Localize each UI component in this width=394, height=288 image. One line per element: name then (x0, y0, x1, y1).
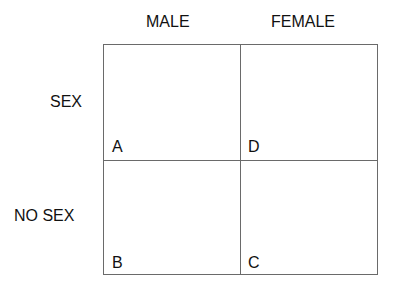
quadrant-grid: A D B C (103, 44, 378, 275)
cell-label-b: B (112, 255, 123, 271)
row-header-sex: SEX (50, 94, 82, 110)
column-header-male: MALE (146, 14, 190, 30)
column-header-female: FEMALE (271, 14, 335, 30)
row-header-no-sex: NO SEX (14, 208, 74, 224)
cell-label-a: A (112, 139, 123, 155)
horizontal-divider (104, 160, 377, 161)
cell-label-c: C (248, 255, 260, 271)
cell-label-d: D (248, 139, 260, 155)
